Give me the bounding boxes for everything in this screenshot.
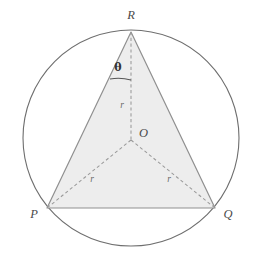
vertex-label-q: Q	[223, 207, 232, 221]
vertex-label-r: R	[126, 8, 135, 22]
radius-label-right: r	[167, 174, 171, 184]
center-label-o: O	[139, 126, 148, 140]
vertex-label-p: P	[29, 207, 38, 221]
geometry-figure: R P Q O r r r θ	[0, 0, 256, 255]
radius-label-left: r	[90, 174, 94, 184]
radius-label-top: r	[120, 100, 124, 110]
geometry-canvas: R P Q O r r r θ	[0, 0, 256, 255]
theta-angle-label: θ	[114, 61, 121, 74]
